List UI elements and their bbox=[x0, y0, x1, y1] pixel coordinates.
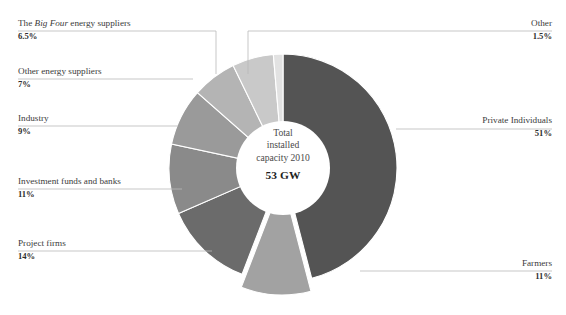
slice-label-other-name: Other bbox=[352, 18, 552, 30]
slice-label-private-individuals[interactable]: Private Individuals 51% bbox=[352, 115, 552, 139]
slice-label-other-value: 1.5% bbox=[352, 30, 552, 42]
slice-label-project-firms-name: Project firms bbox=[18, 238, 218, 250]
slice-label-other[interactable]: Other 1.5% bbox=[352, 18, 552, 42]
slice-label-investment-funds-and-banks-name: Investment funds and banks bbox=[18, 176, 218, 188]
slice-label-private-individuals-value: 51% bbox=[352, 127, 552, 139]
center-line-1: Total bbox=[223, 127, 343, 139]
slice-label-industry-value: 9% bbox=[18, 125, 218, 137]
slice-label-farmers[interactable]: Farmers 11% bbox=[352, 258, 552, 282]
slice-label-investment-funds-and-banks[interactable]: Investment funds and banks 11% bbox=[18, 176, 218, 200]
slice-label-investment-funds-and-banks-value: 11% bbox=[18, 188, 218, 200]
slice-label-other-energy-suppliers-value: 7% bbox=[18, 78, 218, 90]
slice-label-big-four[interactable]: The Big Four energy suppliers 6.5% bbox=[18, 18, 218, 42]
slice-label-farmers-value: 11% bbox=[352, 270, 552, 282]
center-line-3: capacity 2010 bbox=[223, 152, 343, 164]
slice-label-industry-name: Industry bbox=[18, 113, 218, 125]
slice-label-farmers-name: Farmers bbox=[352, 258, 552, 270]
slice-label-big-four-name: The Big Four energy suppliers bbox=[18, 18, 218, 30]
slice-label-project-firms[interactable]: Project firms 14% bbox=[18, 238, 218, 262]
center-total-value: 53 GW bbox=[223, 164, 343, 181]
slice-label-big-four-value: 6.5% bbox=[18, 30, 218, 42]
slice-label-project-firms-value: 14% bbox=[18, 250, 218, 262]
slice-label-private-individuals-name: Private Individuals bbox=[352, 115, 552, 127]
pie-chart-figure: The Big Four energy suppliers 6.5% Other… bbox=[0, 0, 566, 315]
slice-label-other-energy-suppliers[interactable]: Other energy suppliers 7% bbox=[18, 66, 218, 90]
donut-center-label: Total installed capacity 2010 53 GW bbox=[223, 127, 343, 181]
slice-label-other-energy-suppliers-name: Other energy suppliers bbox=[18, 66, 218, 78]
slice-label-industry[interactable]: Industry 9% bbox=[18, 113, 218, 137]
center-line-2: installed bbox=[223, 139, 343, 151]
